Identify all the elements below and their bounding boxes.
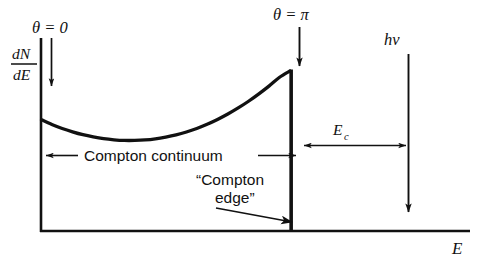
compton-edge-callout-arrow <box>216 208 292 222</box>
continuum-label: Compton continuum <box>84 147 223 164</box>
y-axis-numerator: dN <box>12 45 32 62</box>
compton-spectrum-svg: θ = 0 dN dE θ = π hν E c Compton con <box>0 0 490 263</box>
axes <box>40 38 470 232</box>
y-axis-label: dN dE <box>11 45 37 83</box>
photon-energy-label: hν <box>384 30 400 49</box>
theta-zero-label: θ = 0 <box>32 18 68 37</box>
compton-continuum-curve <box>42 71 290 141</box>
x-axis-label: E <box>451 239 463 258</box>
theta-pi-label: θ = π <box>273 5 309 24</box>
compton-edge-label-line1: “Compton <box>196 171 264 188</box>
y-axis-denominator: dE <box>13 66 31 83</box>
ec-subscript: c <box>344 131 349 142</box>
continuum-span-annotation: Compton continuum <box>46 147 296 164</box>
compton-spectrum-figure: θ = 0 dN dE θ = π hν E c Compton con <box>0 0 490 263</box>
compton-edge-callout: “Compton edge” <box>196 171 292 222</box>
theta-zero-annotation: θ = 0 <box>32 18 68 86</box>
photon-energy-annotation: hν <box>384 30 409 212</box>
theta-pi-annotation: θ = π <box>273 5 309 66</box>
ec-label: E <box>332 121 343 138</box>
compton-edge-label-line2: edge” <box>215 189 255 206</box>
ec-span-annotation: E c <box>304 121 406 146</box>
